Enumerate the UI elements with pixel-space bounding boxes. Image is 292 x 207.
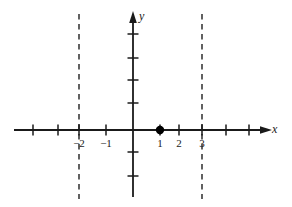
y-axis-arrowhead-icon <box>129 11 137 23</box>
x-tick-label-2: 2 <box>176 138 182 149</box>
y-axis-label: y <box>139 10 144 22</box>
plot-canvas <box>0 0 292 207</box>
x-tick-label-3: 3 <box>199 138 205 149</box>
x-tick-label-1: 1 <box>157 138 163 149</box>
x-axis-arrowhead-icon <box>260 126 272 134</box>
x-tick-label--1: −1 <box>100 138 112 149</box>
coordinate-plane-figure: −2 −1 1 2 3 x y <box>0 0 292 207</box>
x-tick-label--2: −2 <box>73 138 85 149</box>
x-axis-label: x <box>272 123 277 135</box>
data-point-marker <box>156 126 164 134</box>
